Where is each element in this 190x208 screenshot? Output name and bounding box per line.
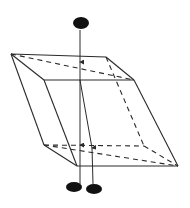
crystal-edge [44,145,77,166]
extraordinary-image-spot [86,184,102,194]
crystal-edge [44,80,77,166]
crystal-solid-edges [11,54,178,166]
ordinary-image-spot [66,182,82,192]
crystal-hidden-edge [44,145,178,166]
extraordinary-ray [80,80,92,148]
light-rays [80,30,93,184]
crystal-hidden-edge [106,57,144,146]
double-refraction-diagram [0,0,190,208]
diagram-canvas [0,0,190,208]
crystal-hidden-edge [11,54,134,80]
extraordinary-ray [92,148,93,184]
crystal-hidden-edges [11,54,178,166]
crystal-hidden-edge [44,145,144,146]
crystal-edge [11,54,106,57]
source-spot [73,17,89,29]
